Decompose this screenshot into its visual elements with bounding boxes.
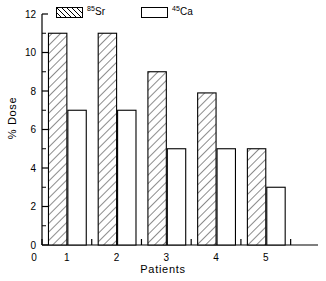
bar-45Ca-patient-5 bbox=[267, 187, 285, 245]
bar-85Sr-patient-4 bbox=[198, 93, 216, 245]
x-axis-tick-labels: 012345 bbox=[31, 252, 269, 263]
x-tick-label: 0 bbox=[31, 252, 37, 263]
y-tick-label: 4 bbox=[30, 163, 36, 174]
x-tick-label: 3 bbox=[164, 252, 170, 263]
bar-45Ca-patient-3 bbox=[167, 149, 185, 245]
bar-85Sr-patient-1 bbox=[48, 33, 66, 245]
bars-group bbox=[48, 33, 285, 245]
bar-85Sr-patient-5 bbox=[247, 149, 265, 245]
y-tick-label: 8 bbox=[30, 86, 36, 97]
x-axis-title: Patients bbox=[0, 263, 326, 275]
y-axis-title: % Dose bbox=[6, 88, 18, 148]
bar-45Ca-patient-2 bbox=[118, 110, 136, 245]
x-tick-label: 2 bbox=[114, 252, 120, 263]
y-axis: 024681012 bbox=[25, 9, 48, 251]
x-tick-label: 4 bbox=[213, 252, 219, 263]
y-tick-label: 2 bbox=[30, 201, 36, 212]
bar-45Ca-patient-4 bbox=[217, 149, 235, 245]
chart-figure: 85Sr 45Ca 024681012 012345 % Dose Pat bbox=[0, 0, 326, 281]
bar-85Sr-patient-2 bbox=[98, 33, 116, 245]
x-tick-label: 5 bbox=[263, 252, 269, 263]
y-tick-label: 10 bbox=[25, 47, 37, 58]
y-tick-label: 6 bbox=[30, 124, 36, 135]
chart-plot-area: 024681012 012345 bbox=[0, 0, 326, 281]
y-axis-tick-labels: 024681012 bbox=[25, 9, 37, 251]
bar-45Ca-patient-1 bbox=[68, 110, 86, 245]
bar-85Sr-patient-3 bbox=[148, 72, 166, 245]
y-axis-major-ticks bbox=[42, 14, 48, 245]
y-tick-label: 12 bbox=[25, 9, 37, 20]
y-tick-label: 0 bbox=[30, 240, 36, 251]
x-tick-label: 1 bbox=[64, 252, 70, 263]
